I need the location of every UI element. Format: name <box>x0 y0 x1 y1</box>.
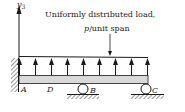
load-arrow <box>145 58 150 75</box>
load-arrow <box>65 58 70 75</box>
load-pointer-arrow <box>108 34 112 56</box>
load-arrow <box>113 58 118 75</box>
load-description-title: Uniformly distributed load, <box>45 10 155 19</box>
y3-axis-arrow <box>17 5 22 58</box>
beam <box>19 76 148 84</box>
y3-axis-label: y3 <box>16 0 26 10</box>
distributed-load-arrows <box>17 58 150 75</box>
point-label-d: D <box>46 85 54 94</box>
fixed-wall-support <box>11 58 18 92</box>
beam-diagram: y3 Uniformly distributed load, p/unit sp… <box>0 0 185 112</box>
point-label-a: A <box>20 85 27 94</box>
point-label-b: B <box>89 86 96 95</box>
load-arrow <box>49 58 54 75</box>
roller-support-c <box>131 84 164 99</box>
load-description-subtitle: p/unit span <box>84 24 130 33</box>
load-arrow <box>129 58 134 75</box>
point-label-c: C <box>152 86 158 95</box>
load-arrow <box>97 58 102 75</box>
load-arrow <box>81 58 86 75</box>
load-arrow <box>33 58 38 75</box>
distributed-load-line <box>19 57 148 58</box>
